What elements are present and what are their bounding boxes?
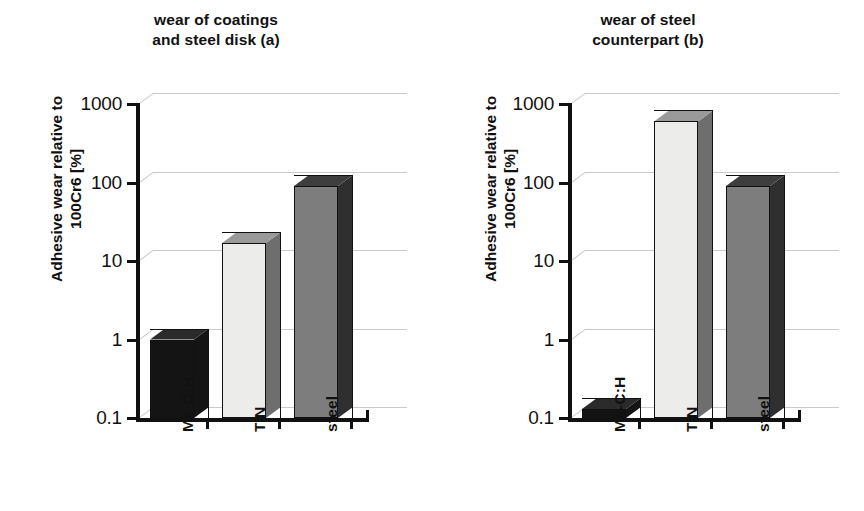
gridline <box>153 93 407 94</box>
bar-side-outline <box>770 175 785 418</box>
x-axis-label-tin: TiN <box>251 407 269 432</box>
bar-steel <box>294 104 357 418</box>
bar-front-face <box>294 186 338 418</box>
bar-side-outline <box>338 175 353 418</box>
x-axis-tick <box>350 418 353 429</box>
x-axis-tick <box>710 418 713 429</box>
bar-front-face <box>726 186 770 418</box>
bar-top-outline <box>294 175 353 186</box>
y-axis-tick-label: 1 <box>112 328 122 350</box>
bar-me-c-h <box>150 104 213 418</box>
gridline <box>585 93 839 94</box>
y-axis-tick-label: 10 <box>533 250 554 272</box>
y-axis-tick <box>127 182 140 185</box>
bar-front-face <box>222 243 266 418</box>
y-axis-tick-label: 1000 <box>513 93 554 115</box>
y-axis-tick <box>559 417 572 420</box>
y-axis-label-b-line-2: 100Cr6 [%] <box>501 24 520 354</box>
y-axis-tick <box>127 417 140 420</box>
plot-area-b: 10001001010.1steelTiNMe-C:H <box>568 104 844 418</box>
x-axis-tick <box>278 418 281 429</box>
y-axis-tick <box>559 103 572 106</box>
bar-top-outline <box>150 329 209 340</box>
y-axis-label-b-line-1: Adhesive wear relative to <box>482 24 501 354</box>
bar-top-outline <box>654 110 713 121</box>
chart-panel-a: wear of coatings and steel disk (a) Adhe… <box>0 0 432 511</box>
y-axis-tick <box>559 260 572 263</box>
x-axis-tick <box>638 418 641 429</box>
x-axis-tick <box>782 418 785 429</box>
bar-side-outline <box>698 110 713 418</box>
x-axis-label-tin: TiN <box>683 407 701 432</box>
x-axis-label-me-c-h: Me-C:H <box>179 377 197 432</box>
y-axis-tick <box>127 260 140 263</box>
x-axis-label-steel: steel <box>755 396 773 432</box>
figure-root: wear of coatings and steel disk (a) Adhe… <box>0 0 864 511</box>
y-axis-tick <box>127 339 140 342</box>
y-axis-label-a-line-2: 100Cr6 [%] <box>67 24 86 354</box>
x-axis-label-me-c-h: Me-C:H <box>611 377 629 432</box>
y-axis-label-a-line-1: Adhesive wear relative to <box>48 24 67 354</box>
y-axis-tick <box>559 182 572 185</box>
y-axis-tick-label: 0.1 <box>528 407 554 429</box>
bar-front-face <box>654 121 698 418</box>
bar-top-outline <box>222 232 281 243</box>
bar-top-outline <box>726 175 785 186</box>
bar-tin <box>222 104 285 418</box>
x-axis-end-tick-a <box>366 410 369 422</box>
y-axis-tick-label: 100 <box>523 171 554 193</box>
bar-tin <box>654 104 717 418</box>
bar-side-outline <box>266 232 281 418</box>
y-axis-label-b: Adhesive wear relative to 100Cr6 [%] <box>482 24 520 354</box>
plot-area-a: 10001001010.1steelTiNMe-C:H <box>136 104 412 418</box>
y-axis-label-a: Adhesive wear relative to 100Cr6 [%] <box>48 24 86 354</box>
bar-steel <box>726 104 789 418</box>
y-axis-tick-label: 100 <box>91 171 122 193</box>
x-axis-end-tick-b <box>798 410 801 422</box>
y-axis-tick-label: 0.1 <box>96 407 122 429</box>
y-axis-tick-label: 1 <box>544 328 554 350</box>
y-axis-tick-label: 1000 <box>81 93 122 115</box>
x-axis-tick <box>206 418 209 429</box>
chart-panel-b: wear of steel counterpart (b) Adhesive w… <box>432 0 864 511</box>
bar-me-c-h <box>582 104 645 418</box>
y-axis-tick <box>559 339 572 342</box>
x-axis-label-steel: steel <box>323 396 341 432</box>
y-axis-tick-label: 10 <box>101 250 122 272</box>
y-axis-tick <box>127 103 140 106</box>
